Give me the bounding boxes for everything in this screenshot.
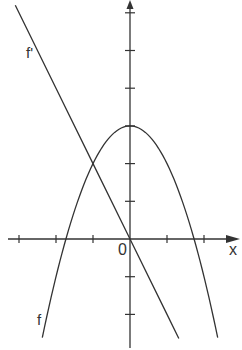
axes: [8, 0, 240, 348]
f-label: f: [37, 312, 41, 327]
x-axis-label: x: [229, 242, 237, 258]
plot-area: [0, 0, 242, 350]
curve-f-prime: [15, 5, 179, 338]
curves: [15, 5, 217, 338]
chart-canvas: f' f 0 x: [0, 0, 242, 350]
y-axis-arrow-icon: [127, 0, 134, 9]
origin-label: 0: [118, 242, 127, 258]
f-prime-label: f': [26, 45, 33, 60]
